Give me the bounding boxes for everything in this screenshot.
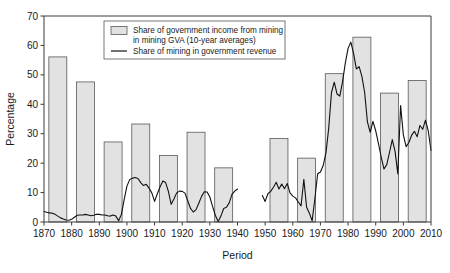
x-tick-label-1870: 1870 — [33, 228, 56, 239]
y-tick-label-0: 0 — [32, 217, 38, 228]
x-tick-label-1980: 1980 — [337, 228, 360, 239]
x-tick-label-1960: 1960 — [282, 228, 305, 239]
y-tick-label-70: 70 — [27, 11, 39, 22]
x-tick-label-1900: 1900 — [116, 228, 139, 239]
x-tick-label-1990: 1990 — [365, 228, 388, 239]
x-tick-label-1940: 1940 — [226, 228, 249, 239]
x-tick-label-2010: 2010 — [420, 228, 443, 239]
x-axis-group: 1870188018901900191019201930194019501960… — [33, 222, 443, 239]
y-tick-label-30: 30 — [27, 128, 39, 139]
y-tick-label-50: 50 — [27, 69, 39, 80]
legend: Share of government income from miningin… — [104, 21, 285, 59]
legend-label-bars-line2: in mining GVA (10-year averages) — [133, 36, 256, 45]
x-tick-label-1950: 1950 — [254, 228, 277, 239]
x-tick-label-1970: 1970 — [309, 228, 332, 239]
x-tick-label-1880: 1880 — [61, 228, 84, 239]
percentage-vs-period-chart: 0102030405060701870188018901900191019201… — [0, 0, 450, 273]
bar-2001-2010 — [408, 80, 426, 222]
bar-1901-1910 — [132, 124, 150, 222]
legend-label-bars-line1: Share of government income from mining — [133, 26, 284, 35]
legend-swatch-bars — [111, 27, 127, 35]
y-tick-label-20: 20 — [27, 158, 39, 169]
x-axis-title: Period — [222, 249, 253, 261]
y-tick-label-40: 40 — [27, 99, 39, 110]
bar-1881-1890 — [76, 82, 94, 222]
bar-1871-1880 — [49, 57, 67, 222]
x-tick-label-1910: 1910 — [143, 228, 166, 239]
legend-label-line: Share of mining in government revenue — [133, 47, 277, 56]
bar-1971-1980 — [325, 74, 343, 222]
x-tick-label-2000: 2000 — [392, 228, 415, 239]
y-axis-title: Percentage — [4, 92, 16, 146]
bar-1951-1960 — [270, 138, 288, 222]
chart-container: 0102030405060701870188018901900191019201… — [0, 0, 450, 273]
x-tick-label-1930: 1930 — [199, 228, 222, 239]
bar-1891-1900 — [104, 142, 122, 222]
y-tick-label-60: 60 — [27, 40, 39, 51]
y-axis-group: 010203040506070 — [27, 11, 44, 228]
bar-1911-1920 — [159, 155, 177, 222]
x-tick-label-1920: 1920 — [171, 228, 194, 239]
bar-1931-1940 — [215, 168, 233, 222]
revenue-line-group — [44, 42, 431, 221]
x-tick-label-1890: 1890 — [88, 228, 111, 239]
y-tick-label-10: 10 — [27, 187, 39, 198]
